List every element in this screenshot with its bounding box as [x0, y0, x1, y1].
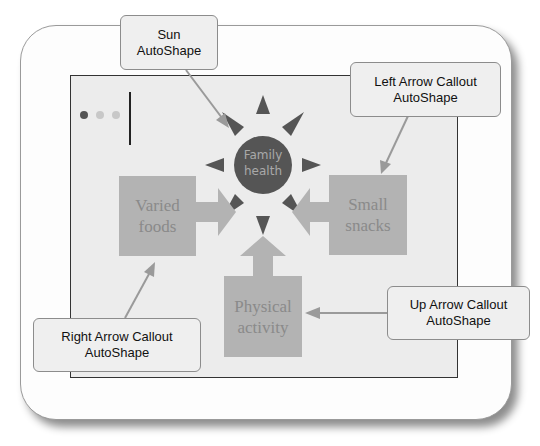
physical-activity-line1: Physical	[234, 296, 292, 317]
up-arrow-callout-line2: AutoShape	[410, 313, 508, 329]
right-arrow-shape[interactable]	[196, 188, 236, 236]
left-arrow-callout-line2: AutoShape	[374, 90, 477, 106]
varied-foods-line2: foods	[135, 216, 179, 237]
sun-label-line1: Family	[233, 147, 293, 163]
left-arrow-callout-line1: Left Arrow Callout	[374, 74, 477, 90]
sun-ray-bottom	[256, 216, 270, 235]
sun-ray-right	[302, 158, 321, 172]
physical-activity-line2: activity	[234, 317, 292, 338]
up-arrow-shape[interactable]	[240, 236, 286, 276]
sun-callout-line2: AutoShape	[137, 43, 201, 59]
sun-callout: SunAutoShape	[120, 15, 218, 70]
varied-foods-box[interactable]: Variedfoods	[119, 176, 196, 256]
small-snacks-line1: Small	[345, 194, 390, 215]
right-arrow-callout: Right Arrow CalloutAutoShape	[33, 318, 201, 372]
sun-ray-left	[205, 158, 224, 172]
sun-label: Family health	[233, 147, 293, 179]
sun-ray-top	[256, 95, 270, 114]
sun-callout-line1: Sun	[137, 27, 201, 43]
up-arrow-callout: Up Arrow CalloutAutoShape	[387, 286, 530, 340]
sun-label-line2: health	[233, 163, 293, 179]
left-arrow-shape[interactable]	[292, 188, 329, 236]
up-arrow-callout-line1: Up Arrow Callout	[410, 297, 508, 313]
sun-ray-top-right	[282, 112, 304, 136]
varied-foods-line1: Varied	[135, 195, 179, 216]
right-arrow-callout-line1: Right Arrow Callout	[61, 329, 172, 345]
right-arrow-callout-line2: AutoShape	[61, 345, 172, 361]
left-arrow-callout: Left Arrow CalloutAutoShape	[350, 62, 501, 117]
small-snacks-line2: snacks	[345, 215, 390, 236]
small-snacks-box[interactable]: Smallsnacks	[329, 175, 407, 255]
physical-activity-box[interactable]: Physicalactivity	[224, 276, 302, 357]
